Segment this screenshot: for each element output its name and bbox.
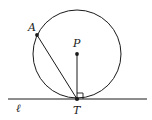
- label-p: P: [72, 37, 81, 50]
- label-a: A: [27, 21, 36, 34]
- label-line-l: ℓ: [16, 102, 21, 115]
- point-p-dot: [75, 52, 79, 56]
- point-t-dot: [75, 97, 79, 101]
- tangent-circle-diagram: A P T ℓ: [0, 0, 152, 120]
- segment-at: [37, 35, 77, 99]
- label-t: T: [73, 104, 82, 117]
